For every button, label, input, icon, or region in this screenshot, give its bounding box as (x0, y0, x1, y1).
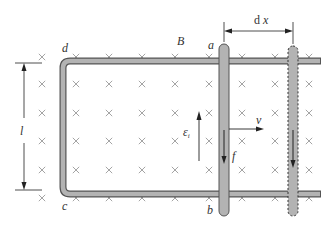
field-cross-icon (206, 81, 212, 87)
rod-on-rails-diagram: d x l εi v f B d c a b (0, 0, 334, 227)
field-cross-icon (39, 195, 45, 201)
field-cross-icon (39, 81, 45, 87)
corner-label-d: d (62, 41, 69, 55)
emf-label: εi (183, 125, 190, 140)
field-cross-icon (139, 138, 145, 144)
field-cross-icon (73, 110, 79, 116)
length-label: l (20, 124, 24, 138)
field-cross-icon (39, 54, 45, 60)
field-cross-icon (139, 81, 145, 87)
field-cross-icon (106, 167, 112, 173)
dx-label-x: x (262, 13, 269, 27)
field-cross-icon (106, 138, 112, 144)
field-cross-icon (73, 81, 79, 87)
field-label-B: B (177, 34, 185, 48)
field-cross-icon (239, 138, 245, 144)
dx-dimension: d x (224, 13, 293, 44)
field-cross-icon (172, 138, 178, 144)
field-cross-icon (172, 167, 178, 173)
field-cross-icon (272, 138, 278, 144)
field-cross-icon (306, 81, 312, 87)
field-cross-icon (272, 110, 278, 116)
field-cross-icon (39, 138, 45, 144)
field-cross-icon (139, 167, 145, 173)
field-cross-icon (306, 138, 312, 144)
field-cross-icon (272, 81, 278, 87)
field-cross-icon (206, 110, 212, 116)
velocity-label: v (256, 113, 262, 127)
field-cross-icon (73, 167, 79, 173)
rail-frame (63, 58, 321, 198)
length-dimension: l (15, 63, 42, 190)
field-cross-icon (39, 110, 45, 116)
field-cross-icon (306, 167, 312, 173)
field-cross-icon (206, 167, 212, 173)
magnetic-field-crosses (39, 54, 312, 201)
field-cross-icon (306, 110, 312, 116)
field-cross-icon (73, 138, 79, 144)
field-cross-icon (239, 167, 245, 173)
field-cross-icon (239, 110, 245, 116)
field-cross-icon (139, 110, 145, 116)
field-cross-icon (106, 81, 112, 87)
velocity-arrow: v (229, 113, 264, 132)
field-cross-icon (272, 167, 278, 173)
field-cross-icon (172, 81, 178, 87)
emf-arrow: εi (183, 111, 202, 161)
force-label: f (232, 149, 237, 163)
field-cross-icon (206, 138, 212, 144)
field-cross-icon (172, 110, 178, 116)
corner-label-c: c (62, 199, 68, 213)
field-cross-icon (106, 110, 112, 116)
field-cross-icon (39, 167, 45, 173)
field-cross-icon (239, 81, 245, 87)
rod-label-a: a (208, 38, 214, 52)
rod-label-b: b (207, 203, 213, 217)
dx-label-d: d (254, 13, 260, 27)
